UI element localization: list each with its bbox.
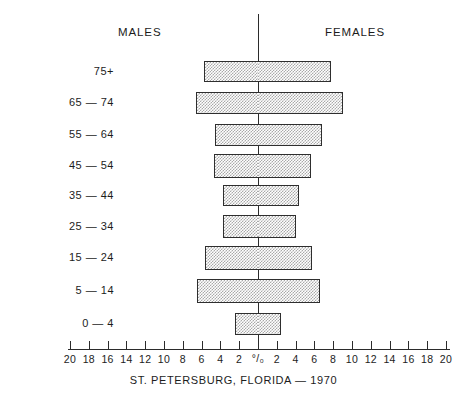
x-axis-tick xyxy=(202,341,203,349)
x-axis-tick-label: 16 xyxy=(101,353,113,365)
pyramid-row xyxy=(0,313,467,335)
x-axis-tick xyxy=(70,341,71,349)
x-axis-tick-label: 20 xyxy=(440,353,452,365)
x-axis-tick xyxy=(239,341,240,349)
pyramid-row xyxy=(0,61,467,82)
x-axis-tick xyxy=(258,341,259,349)
x-axis-tick-label: 2 xyxy=(236,353,242,365)
x-axis-tick-label: 6 xyxy=(199,353,205,365)
x-axis-tick xyxy=(164,341,165,349)
x-axis-origin-label: °/₀ xyxy=(252,352,264,364)
x-axis-tick xyxy=(108,341,109,349)
female-bar xyxy=(258,185,299,206)
x-axis-tick-label: 8 xyxy=(330,353,336,365)
female-bar xyxy=(258,124,322,146)
x-axis-tick-label: 6 xyxy=(311,353,317,365)
x-axis-tick-label: 14 xyxy=(383,353,395,365)
population-pyramid-chart: MALES FEMALES 75+65 — 7455 — 6445 — 5435… xyxy=(0,0,467,404)
x-axis-tick-label: 20 xyxy=(64,353,76,365)
x-axis-tick xyxy=(183,341,184,349)
x-axis-tick-label: 14 xyxy=(120,353,132,365)
pyramid-row xyxy=(0,246,467,270)
female-bar xyxy=(258,92,343,114)
x-axis-tick xyxy=(408,341,409,349)
chart-caption: ST. PETERSBURG, FLORIDA — 1970 xyxy=(0,374,467,386)
pyramid-row xyxy=(0,154,467,178)
x-axis-tick-label: 10 xyxy=(346,353,358,365)
x-axis-tick-label: 8 xyxy=(180,353,186,365)
female-bar xyxy=(258,313,281,335)
x-axis-tick-label: 12 xyxy=(365,353,377,365)
male-bar xyxy=(223,185,258,206)
x-axis-tick-label: 12 xyxy=(139,353,151,365)
male-bar xyxy=(214,154,258,178)
x-axis-tick xyxy=(89,341,90,349)
x-axis-tick xyxy=(220,341,221,349)
female-bar xyxy=(258,61,331,82)
pyramid-row xyxy=(0,215,467,238)
x-axis-tick-label: 4 xyxy=(293,353,299,365)
x-axis-tick-label: 4 xyxy=(217,353,223,365)
x-axis-tick xyxy=(296,341,297,349)
male-bar xyxy=(205,246,258,270)
female-bar xyxy=(258,215,296,238)
x-axis-tick xyxy=(371,341,372,349)
x-axis-tick xyxy=(277,341,278,349)
x-axis-tick xyxy=(145,341,146,349)
pyramid-row xyxy=(0,92,467,114)
x-axis-tick-label: 18 xyxy=(421,353,433,365)
male-bar xyxy=(196,92,258,114)
x-axis-tick xyxy=(427,341,428,349)
pyramid-row xyxy=(0,124,467,146)
x-axis-tick-label: 2 xyxy=(274,353,280,365)
male-bar xyxy=(197,279,258,303)
x-axis-tick xyxy=(333,341,334,349)
x-axis-tick xyxy=(314,341,315,349)
pyramid-row xyxy=(0,279,467,303)
x-axis-tick xyxy=(352,341,353,349)
male-bar xyxy=(215,124,258,146)
x-axis-tick xyxy=(126,341,127,349)
x-axis-line xyxy=(68,349,450,350)
female-bar xyxy=(258,279,320,303)
male-bar xyxy=(235,313,259,335)
x-axis-tick xyxy=(446,341,447,349)
x-axis-tick-label: 18 xyxy=(83,353,95,365)
x-axis-tick-label: 16 xyxy=(402,353,414,365)
x-axis-tick-label: 10 xyxy=(158,353,170,365)
male-bar xyxy=(223,215,258,238)
x-axis-tick xyxy=(390,341,391,349)
female-bar xyxy=(258,246,312,270)
female-bar xyxy=(258,154,311,178)
pyramid-row xyxy=(0,185,467,206)
male-bar xyxy=(204,61,258,82)
